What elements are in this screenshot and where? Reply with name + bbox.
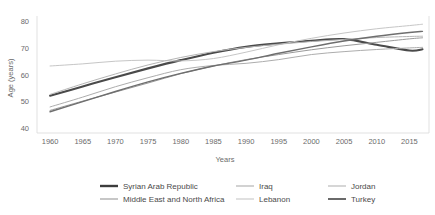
x-tick-1970: 1970 bbox=[107, 137, 124, 146]
series-lines bbox=[50, 24, 422, 111]
x-tick-1960: 1960 bbox=[42, 137, 59, 146]
x-axis-tick-labels: 1960196519701975198019851990199520002005… bbox=[42, 137, 418, 146]
x-tick-1965: 1965 bbox=[74, 137, 91, 146]
x-tick-2015: 2015 bbox=[401, 137, 418, 146]
life-expectancy-line-chart: 1960196519701975198019851990199520002005… bbox=[0, 0, 435, 215]
legend-label-iraq: Iraq bbox=[259, 182, 273, 191]
legend-label-jordan: Jordan bbox=[351, 182, 375, 191]
x-tick-2010: 2010 bbox=[368, 137, 385, 146]
y-tick-40: 40 bbox=[21, 124, 29, 133]
legend-label-middle-east-and-north-africa: Middle East and North Africa bbox=[123, 195, 225, 204]
legend-label-lebanon: Lebanon bbox=[259, 195, 290, 204]
y-tick-50: 50 bbox=[21, 97, 29, 106]
y-axis-tick-labels: 4050607080 bbox=[21, 17, 29, 132]
y-tick-70: 70 bbox=[21, 44, 29, 53]
legend-label-syrian-arab-republic: Syrian Arab Republic bbox=[123, 182, 198, 191]
x-tick-1995: 1995 bbox=[270, 137, 287, 146]
x-axis-title: Years bbox=[216, 155, 235, 164]
x-tick-1975: 1975 bbox=[140, 137, 157, 146]
x-tick-2000: 2000 bbox=[303, 137, 320, 146]
chart-legend: Syrian Arab RepublicIraqJordanMiddle Eas… bbox=[100, 182, 375, 204]
axis-spines bbox=[37, 16, 429, 133]
legend-label-turkey: Turkey bbox=[351, 195, 375, 204]
y-tick-80: 80 bbox=[21, 17, 29, 26]
x-tick-1980: 1980 bbox=[172, 137, 189, 146]
series-line-syrian-arab-republic bbox=[50, 39, 422, 96]
x-tick-1990: 1990 bbox=[238, 137, 255, 146]
series-line-lebanon bbox=[50, 24, 422, 66]
y-tick-60: 60 bbox=[21, 71, 29, 80]
y-axis-title: Age (years) bbox=[6, 58, 15, 97]
x-tick-1985: 1985 bbox=[205, 137, 222, 146]
x-tick-2005: 2005 bbox=[336, 137, 353, 146]
series-line-jordan bbox=[50, 36, 422, 94]
chart-figure: 1960196519701975198019851990199520002005… bbox=[0, 0, 435, 215]
